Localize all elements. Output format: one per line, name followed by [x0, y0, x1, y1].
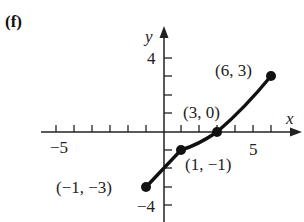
x-tick-label-5: 5: [249, 140, 258, 159]
x-tick-label-minus5: −5: [50, 138, 68, 157]
y-tick-label-4: 4: [147, 49, 156, 68]
point-3-0: [212, 127, 222, 137]
point-6-3: [266, 71, 276, 81]
y-axis-label: y: [143, 27, 153, 46]
point-1-neg1: [176, 145, 186, 155]
x-axis-arrow-icon: [290, 128, 302, 137]
point-neg1-neg3: [141, 182, 151, 192]
x-axis-label: x: [285, 109, 294, 128]
y-tick-label-minus4: −4: [137, 197, 156, 216]
graph: x y −5 5 4 −4 (−1, −3) (1, −1) (3, 0) (6…: [0, 0, 304, 222]
annotation-3-0: (3, 0): [183, 103, 220, 122]
y-axis: [160, 26, 173, 222]
annotation-1-neg1: (1, −1): [185, 155, 231, 174]
annotation-neg1-neg3: (−1, −3): [56, 178, 112, 197]
y-axis-arrow-icon: [160, 26, 169, 38]
annotation-6-3: (6, 3): [215, 61, 252, 80]
x-axis: [41, 125, 302, 137]
